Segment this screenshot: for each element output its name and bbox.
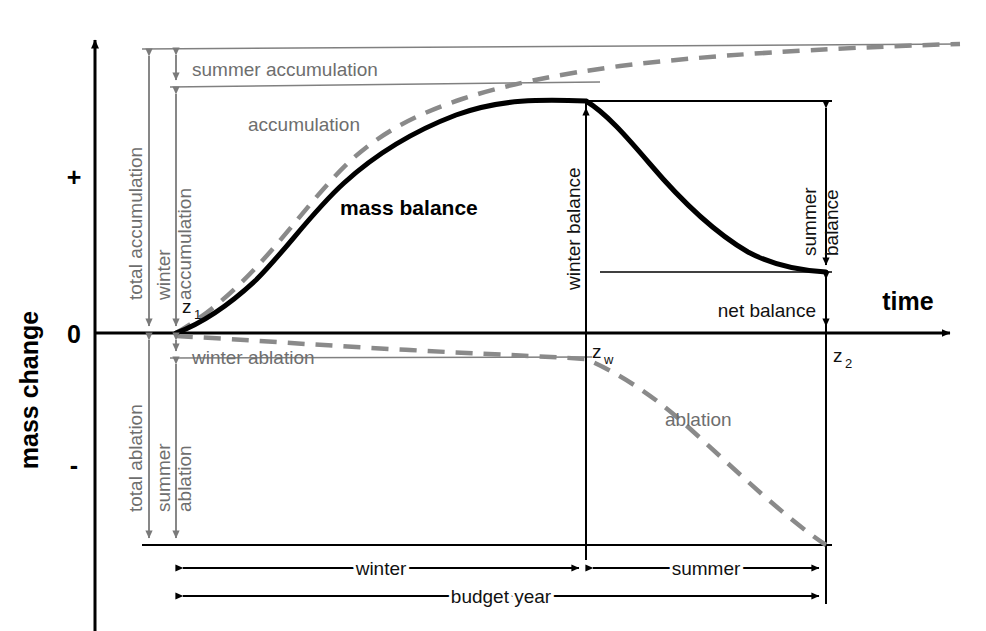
- label-summer-balance-line2: balance: [821, 189, 842, 256]
- curve-mass-balance: [176, 100, 826, 333]
- marker-zw-sub: w: [603, 352, 614, 367]
- y-axis-label: mass change: [15, 311, 43, 470]
- label-curve-mass-balance: mass balance: [340, 196, 478, 219]
- x-axis-label: time: [882, 287, 934, 315]
- marker-z2: z 2: [833, 345, 852, 371]
- label-summer-balance-line1: summer: [799, 187, 820, 256]
- mass-balance-diagram: mass change time + 0 - total accumulatio…: [0, 0, 986, 631]
- label-summer-ablation-line1: summer: [153, 443, 174, 512]
- marker-z2-sub: 2: [845, 356, 852, 371]
- label-summer-accumulation: summer accumulation: [192, 59, 378, 80]
- label-curve-accumulation: accumulation: [248, 114, 360, 135]
- figure-canvas: mass change time + 0 - total accumulatio…: [0, 0, 986, 631]
- label-winter-accumulation-line2: accumulation: [174, 188, 195, 300]
- y-tick-zero: 0: [67, 320, 81, 348]
- label-summer-ablation-line2: ablation: [174, 445, 195, 512]
- label-winter-accumulation-line1: winter: [153, 249, 174, 301]
- label-span-winter: winter: [355, 558, 407, 579]
- label-winter-balance: winter balance: [563, 167, 584, 291]
- marker-zw-base: z: [592, 341, 602, 362]
- guide-winter-accumulation-level: [170, 82, 600, 87]
- label-winter-ablation: winter ablation: [191, 347, 315, 368]
- y-tick-minus: -: [70, 451, 78, 479]
- y-tick-plus: +: [67, 163, 82, 191]
- label-total-accumulation: total accumulation: [125, 147, 146, 300]
- label-span-budget-year: budget year: [451, 586, 552, 607]
- marker-z2-base: z: [833, 345, 843, 366]
- label-total-ablation: total ablation: [125, 404, 146, 512]
- marker-z1-sub: 1: [194, 307, 201, 322]
- marker-z1-base: z: [182, 296, 192, 317]
- label-curve-ablation: ablation: [665, 409, 732, 430]
- label-span-summer: summer: [672, 558, 741, 579]
- label-net-balance: net balance: [718, 300, 816, 321]
- guide-total-accumulation-level: [142, 44, 960, 49]
